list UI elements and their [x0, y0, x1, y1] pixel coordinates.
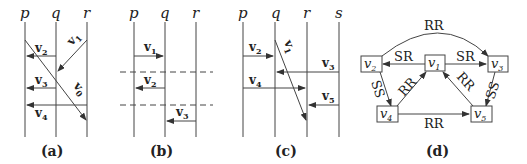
- edge-label-v3-v5: SS: [483, 80, 503, 101]
- caption-d: (d): [426, 143, 449, 159]
- process-label-q: q: [51, 4, 61, 22]
- message-label-v1: v1: [279, 37, 299, 56]
- figure: p q r v2 v3 v4 v1 v0 (a) p q r v1 v2 v3 …: [0, 0, 527, 164]
- message-label-v3: v3: [34, 73, 48, 89]
- panel-d-labels: v2 v1 v3 v4 v5 RR SR SR RR RR SS SS RR (…: [364, 18, 503, 159]
- edge-label-v4-v5: RR: [424, 116, 445, 131]
- edge-label-v5-v1: RR: [454, 69, 479, 94]
- process-label-p: p: [238, 4, 248, 22]
- process-label-q: q: [271, 4, 281, 22]
- message-label-v2: v2: [248, 40, 262, 56]
- caption-b: (b): [150, 143, 173, 159]
- message-label-v1: v1: [143, 40, 157, 56]
- process-label-s: s: [335, 4, 343, 22]
- message-label-v4: v4: [248, 73, 262, 89]
- process-label-q: q: [160, 4, 170, 22]
- caption-a: (a): [41, 143, 63, 159]
- process-label-p: p: [20, 4, 30, 22]
- message-label-v2: v2: [34, 41, 48, 57]
- caption-c: (c): [275, 143, 297, 159]
- message-label-v0: v0: [68, 78, 89, 99]
- message-label-v4: v4: [34, 106, 48, 122]
- process-label-r: r: [303, 4, 311, 22]
- edge-label-v4-v1: RR: [395, 74, 420, 99]
- panel-c-labels: p q r s v2 v1 v3 v4 v5 (c): [238, 4, 343, 159]
- process-label-p: p: [129, 4, 139, 22]
- edge-label-v1-v2: SR: [394, 49, 414, 64]
- process-label-r: r: [83, 4, 91, 22]
- panel-b: [120, 22, 213, 137]
- edge-label-v2-v4: SS: [368, 78, 388, 99]
- message-label-v3: v3: [321, 56, 335, 72]
- process-label-r: r: [192, 4, 200, 22]
- edge-label-v1-v3: SR: [456, 49, 476, 64]
- edge-label-v2-v3: RR: [424, 18, 445, 33]
- message-label-v3: v3: [175, 105, 189, 121]
- message-label-v5: v5: [321, 89, 335, 105]
- message-label-v2: v2: [143, 73, 157, 89]
